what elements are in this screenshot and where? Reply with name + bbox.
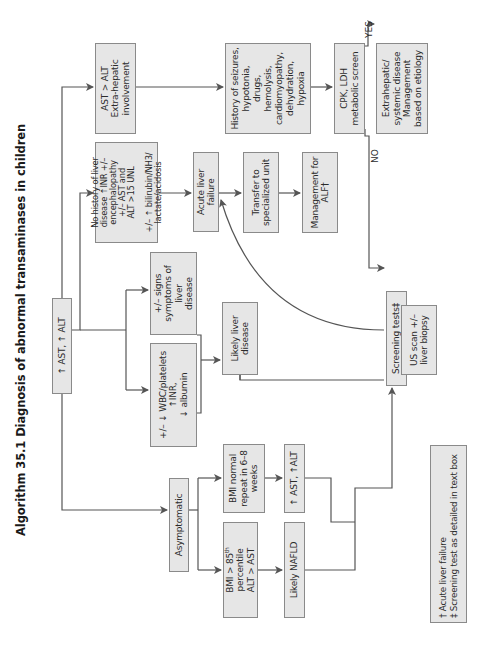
node-transfer-specialized-unit: Transfer to specialized unit [243,152,279,233]
footnote-dagger: † Acute liver failure [438,537,449,618]
node-acute-liver-failure: Acute liver failure [193,152,219,232]
node-bmi-gt-85-percentile: BMI > 85th percentileALT > AST [223,522,258,618]
edge-label-yes: YES [364,21,374,38]
node-history-seizures: History of seizures, hypotonia, drugs, h… [225,43,311,134]
node-likely-liver-disease: Likely liver disease [222,302,258,375]
bmi-gt-85-label: BMI > 85th percentileALT > AST [225,526,257,614]
node-bmi-normal: BMI normal repeat in 6–8 weeks [223,444,265,513]
footnote-box: † Acute liver failure ‡ Screening test a… [430,445,467,623]
node-wbc-platelets: +/– ↓ WBC/platelets ↑INR, ↓ albumin [150,343,197,447]
node-us-scan-biopsy: US scan +/– liver biopsy [401,305,437,375]
node-management-alf: Management for ALF† [302,152,338,233]
edge-label-no: NO [370,149,380,163]
node-elevated-ast-alt: ↑ AST, ↑ ALT [52,298,72,394]
node-elevated-ast-alt-repeat: ↑ AST, ↑ALT [284,444,305,513]
node-asymptomatic: Asymptomatic [169,478,189,572]
node-signs-symptoms: +/– signs symptoms of liver disease [150,252,197,335]
node-cpk-ldh-screen: CPK, LDH metabolic screen [334,43,365,134]
node-no-history-liver-disease: No history of liver disease ↑INR +/– enc… [95,142,158,243]
footnote-double-dagger: ‡ Screening test as detailed in text box [449,454,460,618]
node-extrahepatic-management: Extrahepatic/ systemic disease Managemen… [376,43,428,134]
flowchart-canvas: Algorithm 35.1 Diagnosis of abnormal tra… [0,0,490,660]
node-ast-gt-alt: AST > ALT Extra-hepatic involvement [95,43,136,134]
node-likely-nafld: Likely NAFLD [284,522,305,618]
